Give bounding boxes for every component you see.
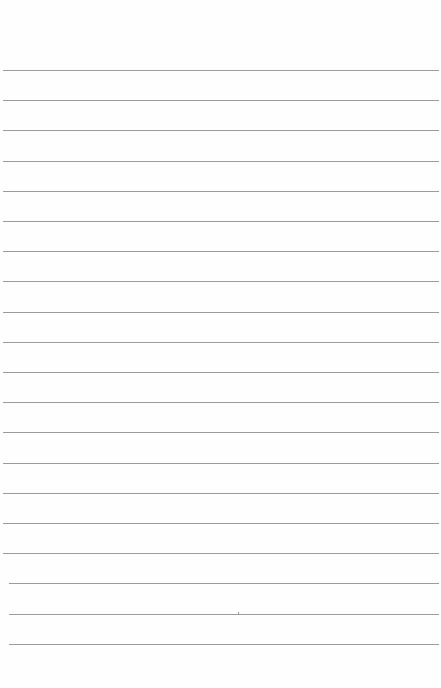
ruled-line bbox=[9, 614, 439, 615]
ruled-line bbox=[9, 644, 439, 645]
ruled-line bbox=[3, 432, 439, 433]
ruled-line bbox=[3, 553, 439, 554]
ruled-line bbox=[3, 523, 439, 524]
ruled-line bbox=[3, 70, 439, 71]
ruled-line bbox=[3, 281, 439, 282]
ruled-line bbox=[3, 372, 439, 373]
ruled-line bbox=[3, 221, 439, 222]
ruled-line bbox=[3, 130, 439, 131]
paper-speck-mark bbox=[238, 612, 239, 614]
ruled-line bbox=[3, 463, 439, 464]
ruled-line bbox=[3, 161, 439, 162]
ruled-line bbox=[3, 191, 439, 192]
ruled-line bbox=[3, 312, 439, 313]
ruled-line bbox=[9, 583, 439, 584]
ruled-line bbox=[3, 251, 439, 252]
lined-paper-sheet bbox=[0, 0, 441, 688]
ruled-line bbox=[3, 493, 439, 494]
ruled-line bbox=[3, 402, 439, 403]
ruled-line bbox=[3, 342, 439, 343]
ruled-line bbox=[3, 100, 439, 101]
